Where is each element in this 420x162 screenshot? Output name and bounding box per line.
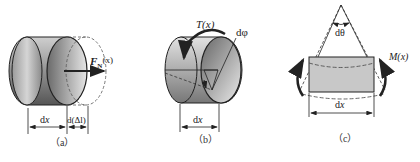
panel-a-axial: FN(x) dx d(Δl) （a） (9, 37, 113, 148)
panel-c-bending: dθ M(x) dx （c） (298, 5, 410, 144)
dx-label: dx (193, 114, 203, 125)
delta-l-label: d(Δl) (67, 115, 86, 125)
cylinder-left-face (12, 37, 42, 105)
torque-label: T(x) (196, 18, 215, 31)
force-label: FN(x) (89, 55, 113, 70)
beam-element (309, 57, 374, 92)
moment-arrow-right (380, 60, 386, 96)
dx-label: dx (40, 114, 50, 125)
deformation-diagram: FN(x) dx d(Δl) （a） T(x) dφ dx （b (0, 0, 420, 162)
moment-arrow-left (298, 60, 304, 96)
caption-c: （c） (333, 133, 357, 144)
dtheta-label: dθ (335, 27, 345, 38)
caption-a: （a） (50, 137, 74, 148)
dphi-label: dφ (236, 26, 248, 38)
caption-b: （b） (193, 134, 218, 145)
panel-b-torsion: T(x) dφ dx （b） (165, 18, 248, 145)
dx-label: dx (335, 99, 345, 110)
moment-label: M(x) (388, 51, 409, 63)
